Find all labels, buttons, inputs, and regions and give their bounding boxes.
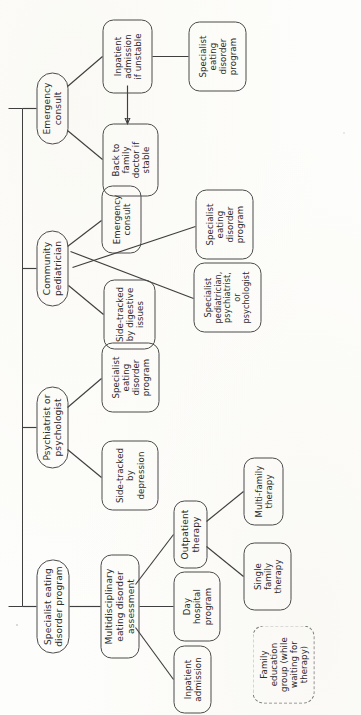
node-label: Community pediatrician	[41, 234, 62, 302]
node-label: Side-tracked by digestive issues	[114, 283, 144, 345]
node-label: Family education group (while waiting fo…	[258, 629, 309, 699]
node-label: Specialist eating disorder program	[110, 346, 151, 408]
node-label: Emergency consult	[111, 189, 131, 249]
node-side-tracked-by-digestive-issues[interactable]: Side-tracked by digestive issues	[103, 279, 155, 349]
node-inpatient-admission[interactable]: Inpatient admission	[173, 645, 211, 713]
node-inpatient-admission-if-unstable[interactable]: Inpatient admission if unstable	[102, 19, 152, 93]
node-specialist-eating-disorder-program-c[interactable]: Specialist eating disorder program	[101, 342, 159, 412]
edge-mdt-to-inpatient	[135, 627, 173, 679]
edge-psych-to-specialist-program	[67, 378, 101, 407]
node-label: Side-tracked by depression	[114, 444, 144, 506]
edge-community-to-sidetracked-digestive	[68, 285, 103, 314]
node-label: Specialist pediatrician, psychiatrist, o…	[203, 266, 251, 328]
node-label: Specialist eating disorder program	[197, 25, 238, 87]
edge-emergency-to-inpatient	[67, 56, 102, 86]
node-label: Inpatient admission	[182, 649, 202, 709]
node-label: Day hospital program	[181, 575, 211, 637]
node-label: Single family therapy	[252, 546, 282, 606]
node-label: Psychiatrist or psychologist	[41, 390, 62, 464]
flowchart-stage: Emergency consult Community pediatrician…	[0, 0, 361, 715]
edge-mdt-to-outpatient	[135, 534, 173, 584]
node-label: Outpatient therapy	[179, 504, 200, 564]
edge-psych-to-sidetracked-depression	[67, 449, 101, 477]
node-emergency-consult[interactable]: Emergency consult	[36, 72, 68, 144]
node-emergency-consult-2[interactable]: Emergency consult	[101, 185, 141, 253]
node-psychiatrist-or-psychologist[interactable]: Psychiatrist or psychologist	[36, 386, 68, 468]
node-day-hospital-program[interactable]: Day hospital program	[173, 571, 220, 641]
node-label: Multi-family therapy	[253, 461, 273, 521]
node-multi-family-therapy[interactable]: Multi-family therapy	[243, 457, 283, 525]
node-specialist-eating-disorder-program-entry[interactable]: Specialist eating disorder program	[36, 559, 69, 653]
edge-outpatient-to-multifamily	[206, 491, 243, 521]
node-label: Multidisciplinary eating disorder assess…	[103, 558, 135, 654]
node-specialist-pediatrician-psychiatrist-or-psychologist[interactable]: Specialist pediatrician, psychiatrist, o…	[193, 262, 261, 332]
node-multidisciplinary-eating-disorder-assessment[interactable]: Multidisciplinary eating disorder assess…	[100, 554, 139, 658]
edge-community-to-emergency	[67, 220, 101, 246]
node-side-tracked-by-depression[interactable]: Side-tracked by depression	[101, 440, 158, 510]
node-family-education-group[interactable]: Family education group (while waiting fo…	[252, 625, 314, 703]
trunk-line	[8, 108, 22, 606]
node-single-family-therapy[interactable]: Single family therapy	[243, 542, 291, 610]
node-community-pediatrician[interactable]: Community pediatrician	[36, 230, 68, 306]
node-label: Specialist eating disorder program	[204, 193, 245, 255]
node-label: Emergency consult	[41, 76, 62, 140]
node-label: Back to family doctor if stable	[110, 127, 151, 192]
node-outpatient-therapy[interactable]: Outpatient therapy	[173, 500, 207, 568]
node-label: Inpatient admission if unstable	[112, 23, 142, 89]
edge-emergency-to-backtofamily	[67, 130, 102, 159]
node-specialist-eating-disorder-program-a[interactable]: Specialist eating disorder program	[188, 21, 246, 91]
scanned-page: Emergency consult Community pediatrician…	[0, 0, 361, 715]
node-label: Specialist eating disorder program	[42, 563, 63, 649]
node-specialist-eating-disorder-program-b[interactable]: Specialist eating disorder program	[195, 189, 253, 259]
